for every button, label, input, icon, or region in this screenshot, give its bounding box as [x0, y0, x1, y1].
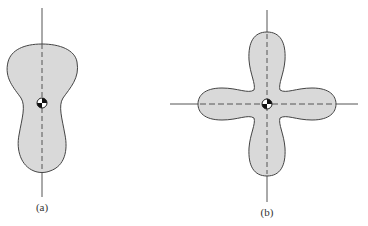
figure-a [7, 8, 77, 197]
centroid-symbol-icon [262, 99, 272, 109]
figure-b [170, 10, 358, 202]
centroid-symbol-icon [37, 98, 47, 108]
figure-a-label: (a) [36, 201, 48, 213]
figure-b-label: (b) [261, 206, 274, 218]
diagram-canvas [0, 0, 368, 226]
